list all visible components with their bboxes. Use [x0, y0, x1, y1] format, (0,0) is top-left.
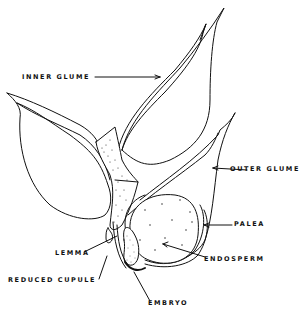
- label-outer-glume: OUTER GLUME: [230, 166, 300, 173]
- diagram-canvas: INNER GLUME OUTER GLUME PALEA ENDOSPERM …: [0, 0, 305, 309]
- rachilla-stipple: [96, 127, 138, 230]
- label-palea: PALEA: [234, 221, 265, 228]
- inner-glume-shape: [118, 8, 224, 164]
- label-reduced-cupule: REDUCED CUPULE: [8, 277, 96, 284]
- left-bract-shape: [7, 93, 111, 219]
- label-inner-glume: INNER GLUME: [22, 74, 90, 81]
- label-lemma: LEMMA: [55, 250, 90, 257]
- label-embryo: EMBRYO: [148, 300, 188, 307]
- label-endosperm: ENDOSPERM: [204, 256, 265, 263]
